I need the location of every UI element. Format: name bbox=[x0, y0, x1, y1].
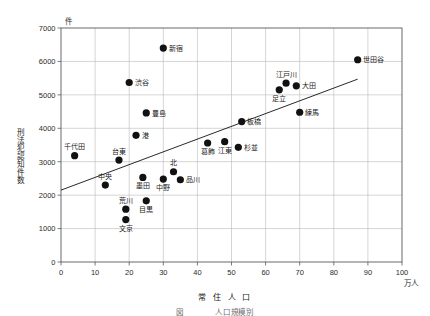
svg-text:2000: 2000 bbox=[39, 191, 56, 200]
svg-text:50: 50 bbox=[227, 268, 235, 277]
data-point bbox=[293, 82, 300, 89]
data-point bbox=[71, 152, 78, 159]
chart-canvas: 0102030405060708090100010002000300040005… bbox=[0, 0, 430, 316]
x-axis-title: 常 住 人 口 bbox=[198, 292, 252, 302]
data-point-label: 港 bbox=[142, 131, 149, 140]
svg-text:0: 0 bbox=[51, 258, 55, 267]
data-point bbox=[276, 86, 283, 93]
data-point bbox=[126, 79, 133, 86]
data-point bbox=[122, 216, 129, 223]
svg-text:40: 40 bbox=[193, 268, 201, 277]
svg-text:1000: 1000 bbox=[39, 224, 56, 233]
data-point-label: 杉並 bbox=[244, 143, 258, 152]
svg-text:20: 20 bbox=[125, 268, 133, 277]
svg-text:6000: 6000 bbox=[39, 57, 56, 66]
data-point-label: 江戸川 bbox=[276, 71, 297, 79]
svg-text:60: 60 bbox=[261, 268, 269, 277]
data-point bbox=[132, 132, 139, 139]
scatter-chart-figure: 刑法犯認知件数 01020304050607080901000100020003… bbox=[0, 0, 430, 316]
data-point-label: 品川 bbox=[186, 176, 200, 184]
svg-text:70: 70 bbox=[296, 268, 304, 277]
data-point bbox=[238, 118, 245, 125]
data-point-label: 大田 bbox=[302, 81, 316, 90]
data-point-label: 墨田 bbox=[136, 182, 150, 190]
data-point-label: 北 bbox=[170, 159, 177, 167]
data-point bbox=[122, 206, 129, 213]
data-point-label: 練馬 bbox=[305, 108, 319, 117]
svg-text:0: 0 bbox=[59, 268, 63, 277]
data-point-label: 中央 bbox=[98, 172, 112, 181]
data-point bbox=[143, 197, 150, 204]
svg-text:100: 100 bbox=[396, 268, 409, 277]
data-point bbox=[115, 156, 122, 163]
data-point bbox=[221, 138, 228, 145]
gridlines bbox=[61, 28, 402, 262]
data-point-label: 台東 bbox=[112, 147, 126, 156]
data-point bbox=[143, 109, 150, 116]
data-point bbox=[102, 182, 109, 189]
data-point bbox=[204, 139, 211, 146]
svg-text:80: 80 bbox=[330, 268, 338, 277]
data-point bbox=[354, 56, 361, 63]
data-point-label: 世田谷 bbox=[363, 55, 384, 64]
data-point bbox=[296, 109, 303, 116]
svg-text:90: 90 bbox=[364, 268, 372, 277]
figure-caption: 図 人口規模別 bbox=[0, 306, 430, 316]
data-point-label: 千代田 bbox=[64, 142, 85, 151]
data-point-label: 江東 bbox=[218, 146, 232, 155]
data-point bbox=[170, 168, 177, 175]
data-point bbox=[282, 80, 289, 87]
svg-text:7000: 7000 bbox=[39, 24, 56, 33]
svg-text:4000: 4000 bbox=[39, 124, 56, 133]
svg-text:万人: 万人 bbox=[404, 279, 419, 288]
data-point bbox=[139, 174, 146, 181]
data-point bbox=[177, 176, 184, 183]
data-point bbox=[160, 44, 167, 51]
data-point bbox=[235, 144, 242, 151]
data-point-label: 足立 bbox=[272, 94, 286, 103]
data-points: 千代田台東中央渋谷荒川文京墨田目黒豊島港新宿中野北品川葛飾江東杉並板橋練馬足立江… bbox=[64, 44, 384, 233]
svg-text:件: 件 bbox=[65, 16, 73, 26]
data-point-label: 中野 bbox=[156, 183, 170, 192]
data-point-label: 板橋 bbox=[247, 117, 261, 126]
data-point-label: 文京 bbox=[119, 224, 133, 233]
svg-text:5000: 5000 bbox=[39, 91, 56, 100]
data-point-label: 新宿 bbox=[169, 44, 183, 53]
svg-text:30: 30 bbox=[159, 268, 167, 277]
svg-text:常 住 人 口: 常 住 人 口 bbox=[198, 292, 252, 302]
svg-text:3000: 3000 bbox=[39, 158, 56, 167]
svg-text:10: 10 bbox=[91, 268, 99, 277]
data-point-label: 葛飾 bbox=[201, 147, 215, 156]
data-point-label: 目黒 bbox=[139, 206, 153, 214]
data-point-label: 渋谷 bbox=[135, 78, 149, 87]
data-point-label: 荒川 bbox=[119, 196, 133, 205]
data-point-label: 豊島 bbox=[152, 109, 166, 118]
data-point bbox=[160, 175, 167, 182]
